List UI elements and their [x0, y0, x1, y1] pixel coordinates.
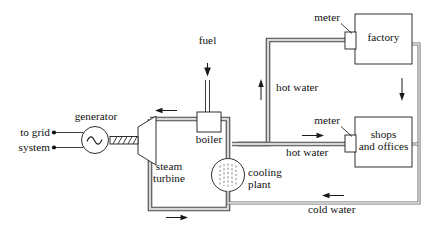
label-fuel: fuel — [186, 34, 229, 47]
label-hot-water-lower: hot water — [286, 146, 328, 159]
steam-turbine — [138, 116, 156, 165]
label-hot-water-upper: hot water — [276, 81, 318, 94]
grid-terminals — [52, 130, 84, 149]
hot-water-riser-arrow — [258, 79, 263, 100]
steam-flow-arrow-bottom — [166, 215, 188, 220]
label-meter-factory: meter — [295, 11, 340, 24]
fuel-pipe — [204, 63, 211, 113]
label-to-grid: to grid — [2, 126, 50, 139]
cooling-plant — [212, 159, 245, 192]
hot-water-shops-arrow — [302, 133, 324, 138]
label-boiler: boiler — [184, 133, 234, 146]
label-steam-turbine-line2: turbine — [143, 172, 195, 185]
label-cold-water: cold water — [308, 203, 355, 216]
label-factory: factory — [355, 31, 412, 44]
district-heating-diagram: to grid system generator steam turbine f… — [0, 0, 435, 232]
generator-shaft — [110, 137, 138, 145]
label-cooling-plant-line2: plant — [248, 178, 271, 191]
steam-flow-arrow-top — [155, 108, 177, 113]
label-generator: generator — [60, 110, 132, 123]
label-steam-turbine-line1: steam — [143, 160, 195, 173]
cold-water-arrow — [322, 193, 344, 198]
label-meter-shops: meter — [295, 114, 340, 127]
generator — [82, 127, 109, 154]
meter-factory — [341, 24, 356, 50]
boiler — [197, 112, 221, 132]
return-down-arrow — [399, 78, 404, 101]
label-shops-line1: shops — [353, 128, 414, 141]
label-system: system — [2, 141, 50, 154]
label-shops-line2: and offices — [353, 140, 414, 153]
label-cooling-plant-line1: cooling — [248, 166, 282, 179]
